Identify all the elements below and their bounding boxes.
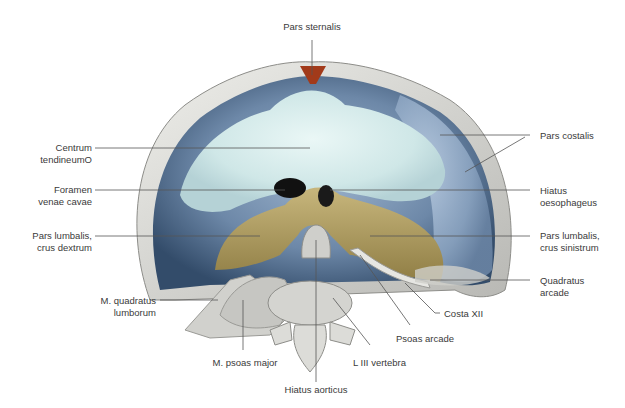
anatomy-drawing xyxy=(0,0,625,408)
label-pars-sternalis: Pars sternalis xyxy=(262,21,362,33)
hiatus-oesophageus-opening xyxy=(318,185,334,207)
foramen-venae-cavae-opening xyxy=(274,178,306,198)
label-hiatus-aorticus: Hiatus aorticus xyxy=(265,384,367,396)
label-pars-lumbalis-crus-dextrum: Pars lumbalis, crus dextrum xyxy=(0,230,92,254)
label-centrum-tendineum: Centrum tendineumO xyxy=(0,142,92,166)
label-psoas-arcade: Psoas arcade xyxy=(396,333,454,345)
label-m-quadratus-lumborum: M. quadratus lumborum xyxy=(60,295,156,319)
label-pars-lumbalis-crus-sinistrum: Pars lumbalis, crus sinistrum xyxy=(540,230,600,254)
label-costa-xii: Costa XII xyxy=(444,308,483,320)
label-foramen-venae-cavae: Foramen venae cavae xyxy=(0,184,92,208)
label-m-psoas-major: M. psoas major xyxy=(195,357,295,369)
transverse-process-right xyxy=(330,322,355,345)
label-hiatus-oesophageus: Hiatus oesophageus xyxy=(540,185,597,209)
label-quadratus-arcade: Quadratus arcade xyxy=(540,275,584,299)
l-iii-vertebra-body xyxy=(268,281,352,325)
spinous-process xyxy=(294,325,327,372)
diaphragm-illustration: Pars sternalis Centrum tendineumO Forame… xyxy=(0,0,625,408)
label-l-iii-vertebra: L III vertebra xyxy=(353,357,406,369)
label-pars-costalis: Pars costalis xyxy=(540,130,594,142)
